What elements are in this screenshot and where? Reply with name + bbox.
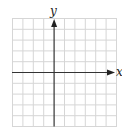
coordinate-plane: y x bbox=[0, 0, 122, 139]
y-axis-label: y bbox=[49, 4, 57, 18]
y-axis-arrow-icon bbox=[51, 19, 57, 27]
x-axis-arrow-icon bbox=[107, 70, 115, 76]
x-axis-label: x bbox=[116, 65, 122, 79]
x-axis bbox=[12, 70, 115, 76]
